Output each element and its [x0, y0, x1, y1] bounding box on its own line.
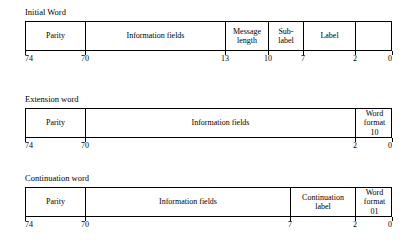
field-label: Parity: [46, 197, 65, 206]
word-box-continuation-word: Parity Information fields Continuation l…: [25, 187, 392, 217]
field-cell-message-length: Message length: [226, 22, 269, 50]
field-cell-word-format: Word format 10: [356, 109, 393, 137]
bit-position-label: 0: [388, 220, 392, 229]
bit-position-label: 10: [264, 54, 272, 63]
bit-position-label: 2: [353, 220, 357, 229]
bit-position-label: 74: [25, 141, 33, 150]
field-label: Continuation label: [302, 193, 344, 211]
field-cell-empty: [356, 22, 393, 50]
bit-position-label: 2: [353, 54, 357, 63]
field-label: Information fields: [159, 197, 217, 206]
diagram-title-initial-word: Initial Word: [25, 7, 66, 17]
bit-position-label: 70: [81, 54, 89, 63]
bit-position-label: 74: [25, 54, 33, 63]
field-label: Parity: [46, 118, 65, 127]
diagram-title-extension-word: Extension word: [25, 94, 79, 104]
field-label: Word format 01: [364, 188, 385, 216]
field-label: Parity: [46, 31, 65, 40]
bit-position-label: 0: [388, 141, 392, 150]
field-label: Label: [320, 31, 338, 40]
bit-position-label: 70: [81, 220, 89, 229]
bit-position-label: 13: [221, 54, 229, 63]
bit-position-label: 0: [388, 54, 392, 63]
field-cell-continuation-label: Continuation label: [291, 188, 356, 216]
word-box-initial-word: Parity Information fields Message length…: [25, 21, 392, 51]
field-cell-label: Label: [304, 22, 356, 50]
field-cell-information-fields: Information fields: [86, 22, 226, 50]
bit-tick: [392, 217, 393, 221]
word-box-extension-word: Parity Information fields Word format 10: [25, 108, 392, 138]
field-cell-information-fields: Information fields: [86, 109, 356, 137]
field-cell-parity: Parity: [26, 22, 86, 50]
diagram-title-continuation-word: Continuation word: [25, 173, 89, 183]
bit-position-label: 74: [25, 220, 33, 229]
bit-position-label: 2: [353, 141, 357, 150]
field-label: Sub- label: [278, 27, 294, 45]
bit-position-label: 7: [301, 54, 305, 63]
field-label: Message length: [233, 27, 261, 45]
field-cell-parity: Parity: [26, 109, 86, 137]
field-cell-parity: Parity: [26, 188, 86, 216]
field-label: Information fields: [192, 118, 250, 127]
field-label: Information fields: [127, 31, 185, 40]
bit-position-label: 7: [288, 220, 292, 229]
bit-tick: [392, 51, 393, 55]
bit-tick: [392, 138, 393, 142]
field-cell-information-fields: Information fields: [86, 188, 291, 216]
field-label: Word format 10: [364, 109, 385, 137]
field-cell-sub-label: Sub- label: [269, 22, 304, 50]
bit-position-label: 70: [81, 141, 89, 150]
field-cell-word-format: Word format 01: [356, 188, 393, 216]
